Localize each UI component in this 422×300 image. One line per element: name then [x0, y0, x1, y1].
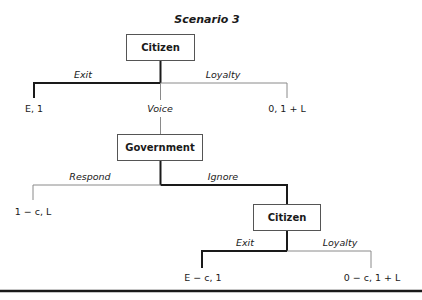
- edge-label-loyalty-1: Loyalty: [206, 70, 241, 80]
- node-government: Government: [117, 134, 203, 161]
- payoff-respond: 1 − c, L: [15, 207, 52, 217]
- edge-label-respond: Respond: [69, 172, 110, 182]
- payoff-loyalty-1: 0, 1 + L: [268, 104, 305, 114]
- game-tree-lines: [0, 0, 422, 300]
- payoff-exit-2: E − c, 1: [184, 273, 221, 283]
- edge-label-exit-2: Exit: [236, 238, 254, 248]
- edge-label-loyalty-2: Loyalty: [323, 238, 358, 248]
- node-citizen-2: Citizen: [253, 204, 321, 231]
- edge-label-exit-1: Exit: [74, 70, 92, 80]
- node-citizen-1: Citizen: [126, 34, 195, 61]
- edge-label-ignore: Ignore: [208, 172, 238, 182]
- payoff-exit-1: E, 1: [25, 104, 43, 114]
- edge-label-voice: Voice: [147, 104, 172, 114]
- payoff-loyalty-2: 0 − c, 1 + L: [344, 273, 401, 283]
- diagram-title: Scenario 3: [174, 14, 239, 25]
